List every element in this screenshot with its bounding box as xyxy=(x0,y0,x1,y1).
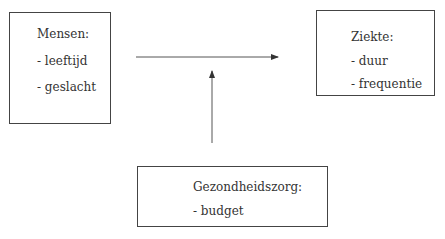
edges-layer xyxy=(0,0,445,239)
